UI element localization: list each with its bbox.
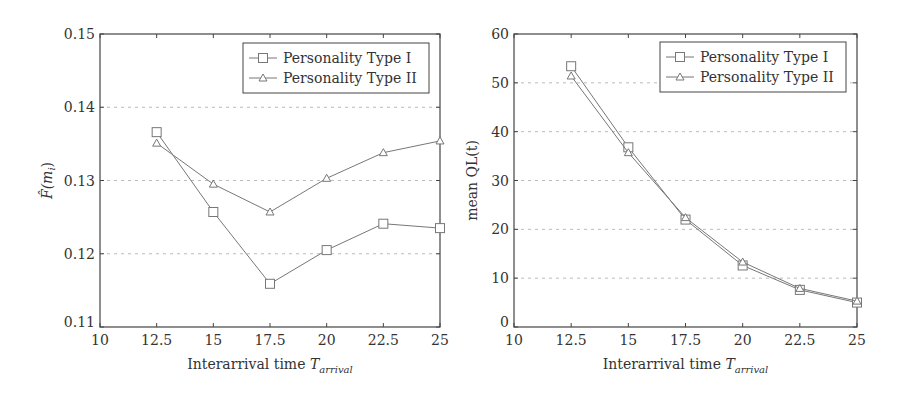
chart-left-fitness: 1012.51517.52022.5250.110.120.130.140.15… [0, 0, 451, 394]
triangle-marker-icon [209, 180, 217, 187]
chart-right-svg: 1012.51517.52022.5250102030405060Interar… [451, 0, 902, 394]
square-marker-icon [379, 219, 388, 228]
x-tick-label: 10 [91, 332, 109, 348]
y-tick-label: 50 [491, 75, 509, 91]
series-line [571, 66, 857, 302]
legend-label: Personality Type I [283, 50, 411, 66]
triangle-marker-icon [567, 72, 575, 79]
y-tick-label: 0.12 [64, 246, 95, 262]
x-axis-label: Interarrival time Tarrival [187, 356, 353, 375]
x-tick-label: 25 [431, 332, 449, 348]
series-2 [567, 72, 861, 304]
y-tick-label: 60 [491, 26, 509, 42]
x-tick-label: 10 [505, 332, 523, 348]
x-tick-label: 22.5 [368, 332, 399, 348]
y-tick-label: 0.11 [64, 314, 95, 330]
x-tick-label: 20 [318, 332, 336, 348]
legend-label: Personality Type II [700, 69, 834, 85]
triangle-marker-icon [436, 137, 444, 144]
triangle-marker-icon [323, 174, 331, 181]
y-axis-label: mean QL(t) [464, 140, 480, 221]
x-tick-label: 17.5 [670, 332, 701, 348]
y-tick-label: 10 [491, 270, 509, 286]
x-tick-label: 12.5 [141, 332, 172, 348]
chart-right-queue-length: 1012.51517.52022.5250102030405060Interar… [451, 0, 902, 394]
y-tick-label: 0.13 [64, 173, 95, 189]
legend-label: Personality Type I [700, 49, 828, 65]
series-line [157, 141, 440, 212]
series-line [571, 76, 857, 301]
x-tick-label: 20 [734, 332, 752, 348]
legend: Personality Type IPersonality Type II [660, 42, 846, 92]
y-axis-label: F̂(mi) [38, 162, 57, 200]
x-tick-label: 15 [619, 332, 637, 348]
triangle-marker-icon [266, 208, 274, 215]
square-marker-icon [322, 246, 331, 255]
square-marker-icon [152, 128, 161, 137]
square-marker-icon [567, 62, 576, 71]
square-marker-icon [259, 54, 268, 63]
y-tick-label: 0 [500, 314, 509, 330]
series-1 [152, 128, 444, 289]
square-marker-icon [266, 279, 275, 288]
chart-left-svg: 1012.51517.52022.5250.110.120.130.140.15… [0, 0, 451, 394]
y-tick-label: 30 [491, 173, 509, 189]
y-tick-label: 40 [491, 124, 509, 140]
x-tick-label: 17.5 [254, 332, 285, 348]
y-tick-label: 0.14 [64, 99, 95, 115]
x-tick-label: 22.5 [784, 332, 815, 348]
x-tick-label: 15 [204, 332, 222, 348]
x-tick-label: 25 [848, 332, 866, 348]
legend-label: Personality Type II [283, 70, 417, 86]
x-tick-label: 12.5 [556, 332, 587, 348]
x-axis-label: Interarrival time Tarrival [603, 356, 769, 375]
square-marker-icon [436, 224, 445, 233]
series-2 [153, 137, 444, 215]
legend: Personality Type IPersonality Type II [243, 43, 429, 93]
square-marker-icon [676, 53, 685, 62]
y-tick-label: 20 [491, 221, 509, 237]
series-line [157, 132, 440, 284]
series-1 [567, 62, 862, 307]
triangle-marker-icon [153, 139, 161, 146]
y-tick-label: 0.15 [64, 26, 95, 42]
square-marker-icon [209, 207, 218, 216]
